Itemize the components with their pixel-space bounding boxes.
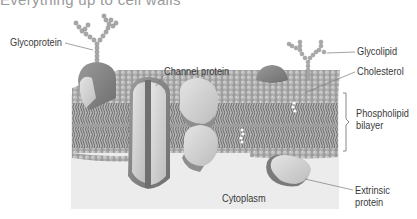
label-bilayer: bilayer: [356, 120, 383, 131]
label-extrinsic: Extrinsic: [355, 185, 390, 196]
label-cytoplasm: Cytoplasm: [222, 193, 266, 204]
peripheral-protein-top: [256, 65, 288, 83]
label-glycolipid: Glycolipid: [357, 46, 397, 57]
label-cholesterol: Cholesterol: [357, 66, 404, 77]
glycoprotein: [74, 14, 118, 110]
label-glycoprotein: Glycoprotein: [10, 37, 62, 48]
label-channel-protein: Channel protein: [164, 66, 229, 77]
label-phospholipid: Phospholipid: [356, 108, 409, 119]
label-protein: protein: [355, 197, 383, 208]
channel-protein: [128, 77, 170, 189]
bilayer-bracket: [343, 93, 349, 151]
